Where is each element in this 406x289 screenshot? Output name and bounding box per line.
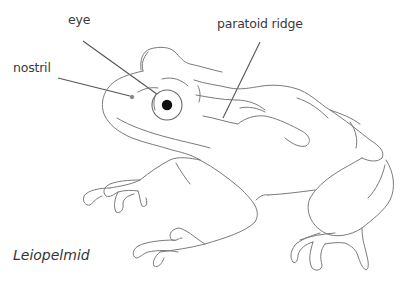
paratoid-ridge-label: paratoid ridge: [217, 18, 303, 31]
eye-pupil: [162, 100, 172, 110]
eye-label: eye: [68, 14, 90, 27]
frog-outline: [83, 47, 393, 270]
nostril-leader-line: [58, 78, 130, 96]
nostril-mark: [130, 95, 134, 99]
nostril-label: nostril: [13, 62, 51, 75]
species-caption: Leiopelmid: [13, 248, 90, 262]
paratoid-ridge-leader-line: [223, 42, 260, 118]
frog-illustration: [0, 0, 406, 289]
